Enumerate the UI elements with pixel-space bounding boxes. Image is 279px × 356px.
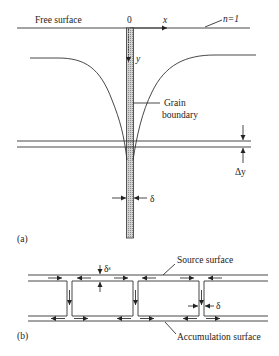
- free-surface-label: Free surface: [35, 15, 82, 25]
- accumulation-surface-leader: [165, 322, 176, 334]
- delta-s-label: δˢ: [104, 264, 111, 274]
- delta-label-b: δ: [216, 301, 221, 311]
- delta-label-a: δ: [150, 194, 155, 204]
- contour-curve-left: [30, 58, 127, 160]
- contour-label: n=1: [223, 14, 239, 24]
- accumulation-surface-label: Accumulation surface: [177, 332, 261, 342]
- contour-leader: [205, 20, 222, 27]
- x-axis-label: x: [162, 15, 168, 25]
- source-surface-leader: [163, 264, 175, 275]
- source-surface-label: Source surface: [177, 255, 233, 265]
- part-a: Free surface 0 x y n=1 Grain boundary Δy…: [17, 14, 256, 245]
- diagram-canvas: Free surface 0 x y n=1 Grain boundary Δy…: [0, 0, 279, 356]
- panel-label-b: (b): [17, 331, 28, 342]
- part-b: Source surface δˢ δ Accumulation surface…: [17, 255, 268, 342]
- origin-label: 0: [127, 15, 132, 25]
- source-surface-inner: [28, 281, 268, 316]
- y-axis-label: y: [135, 54, 141, 64]
- grain-boundary-strip: [127, 28, 134, 238]
- delta-y-label: Δy: [235, 167, 246, 177]
- grain-boundary-label-2: boundary: [162, 110, 198, 120]
- grain-boundary-label-1: Grain: [164, 98, 186, 108]
- panel-label-a: (a): [17, 234, 28, 245]
- contour-curve-right: [133, 55, 256, 160]
